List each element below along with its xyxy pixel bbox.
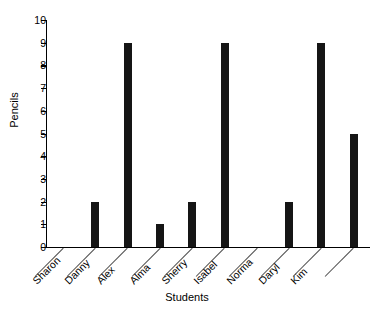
y-tick-label: 5: [16, 128, 46, 139]
bar: [156, 224, 164, 247]
y-tick-label: 6: [16, 106, 46, 117]
bar: [350, 134, 358, 248]
y-tick-label: 4: [16, 151, 46, 162]
x-tick-label: Isabel: [191, 258, 219, 286]
x-tick-label: Daryl: [256, 261, 282, 287]
x-axis-title: Students: [0, 291, 374, 303]
bar: [188, 202, 196, 247]
y-axis-title: Pencils: [8, 75, 20, 145]
y-tick-label: 3: [16, 174, 46, 185]
x-tick-label: Norma: [224, 256, 255, 287]
bar: [317, 43, 325, 247]
y-tick-label: 1: [16, 219, 46, 230]
x-tick-label: Sharon: [30, 254, 62, 286]
bar: [221, 43, 229, 247]
bar: [91, 202, 99, 247]
x-tick-label: Alma: [127, 261, 152, 286]
bar: [124, 43, 132, 247]
bar-chart: 012345678910 SharonDannyAlexAlmaSherryIs…: [0, 0, 374, 313]
y-tick-label: 7: [16, 83, 46, 94]
x-tick-label: Danny: [62, 257, 92, 287]
x-tick-label: Alex: [94, 264, 117, 287]
y-tick-label: 9: [16, 37, 46, 48]
y-tick-label: 2: [16, 196, 46, 207]
y-tick-label: 10: [16, 15, 46, 26]
x-tick-label: Sherry: [159, 256, 189, 286]
bars-group: [46, 20, 370, 247]
bar: [285, 202, 293, 247]
y-tick-label: 8: [16, 60, 46, 71]
y-tick-label: 0: [16, 242, 46, 253]
x-tick-label: Kim: [288, 265, 309, 286]
x-tick-leader-line: [325, 248, 354, 277]
